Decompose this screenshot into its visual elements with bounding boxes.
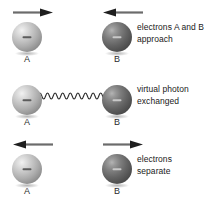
caption-line: separate	[137, 166, 172, 178]
particle-label-a-approach: A	[12, 54, 42, 64]
particle-a-exchange	[12, 85, 42, 115]
feynman-electron-repulsion-diagram: A B electrons A and B approach	[0, 0, 210, 201]
particle-label-b-exchange: B	[102, 117, 132, 127]
caption-line: electrons A and B	[137, 22, 204, 34]
caption-line: exchanged	[137, 96, 189, 108]
particle-label-a-exchange: A	[12, 117, 42, 127]
particle-b-separate	[102, 154, 132, 184]
particle-b-approach	[102, 22, 132, 52]
arrow-left-icon-b-approach	[102, 8, 144, 17]
particle-label-b-separate: B	[102, 186, 132, 196]
negative-charge-icon	[23, 168, 32, 170]
caption-exchange: virtual photon exchanged	[137, 84, 189, 107]
virtual-photon-wave	[38, 88, 106, 104]
caption-approach: electrons A and B approach	[137, 22, 204, 45]
negative-charge-icon	[113, 168, 122, 170]
arrow-right-icon-b-separate	[102, 140, 144, 149]
negative-charge-icon	[23, 36, 32, 38]
caption-line: approach	[137, 34, 204, 46]
particle-label-a-separate: A	[12, 186, 42, 196]
arrow-left-icon-a-separate	[12, 140, 54, 149]
negative-charge-icon	[113, 36, 122, 38]
diagram-row-approach: A B electrons A and B approach	[0, 0, 210, 67]
caption-line: virtual photon	[137, 84, 189, 96]
arrow-right-icon-a-approach	[12, 8, 54, 17]
caption-line: electrons	[137, 154, 172, 166]
particle-label-b-approach: B	[102, 54, 132, 64]
diagram-row-exchange: A B virtual photon exchanged	[0, 67, 210, 134]
diagram-row-separate: A B electrons separate	[0, 134, 210, 201]
particle-a-separate	[12, 154, 42, 184]
negative-charge-icon	[113, 99, 122, 101]
particle-b-exchange	[102, 85, 132, 115]
caption-separate: electrons separate	[137, 154, 172, 177]
negative-charge-icon	[23, 99, 32, 101]
particle-a-approach	[12, 22, 42, 52]
